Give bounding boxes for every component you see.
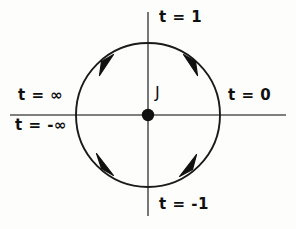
label-t-equals-1: t = 1 <box>159 10 202 25</box>
diagram-canvas: t = 1 t = -1 t = 0 t = ∞ t = -∞ J <box>0 0 296 229</box>
circle-flow-diagram <box>0 0 296 229</box>
label-origin-j: J <box>155 85 160 101</box>
label-t-equals-negative-infinity: t = -∞ <box>15 118 67 133</box>
upper-left-arrow-icon <box>100 55 114 76</box>
lower-right-arrow-icon <box>180 155 197 177</box>
label-t-equals-minus-1: t = -1 <box>159 197 209 212</box>
origin-dot <box>142 109 154 121</box>
label-t-equals-infinity: t = ∞ <box>18 88 63 103</box>
label-t-equals-0: t = 0 <box>228 88 271 103</box>
